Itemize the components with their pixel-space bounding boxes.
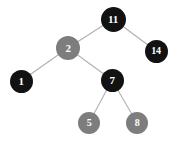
tree-node-8[interactable]: 8 — [126, 112, 148, 134]
tree-node-11[interactable]: 11 — [101, 7, 126, 32]
tree-node-14[interactable]: 14 — [145, 40, 168, 63]
tree-node-label: 2 — [65, 43, 70, 54]
tree-node-2[interactable]: 2 — [56, 36, 80, 60]
tree-node-label: 8 — [135, 118, 140, 128]
tree-node-label: 11 — [108, 14, 118, 25]
tree-node-5[interactable]: 5 — [78, 112, 100, 134]
tree-node-label: 14 — [151, 46, 160, 56]
tree-diagram: 112141758 — [0, 0, 177, 146]
tree-node-label: 7 — [109, 75, 114, 86]
tree-node-label: 5 — [87, 118, 92, 128]
tree-node-1[interactable]: 1 — [10, 70, 33, 93]
tree-node-7[interactable]: 7 — [101, 69, 124, 92]
tree-node-label: 1 — [18, 76, 23, 87]
